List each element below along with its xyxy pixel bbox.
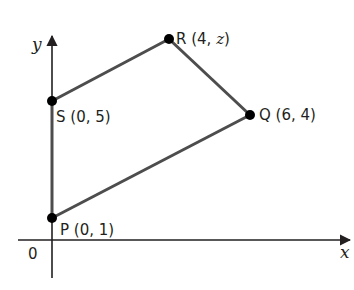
label-r: R (4, z) [176, 30, 230, 48]
point-q [245, 110, 255, 120]
label-r-prefix: R (4, [176, 30, 216, 48]
label-q: Q (6, 4) [259, 106, 316, 124]
y-axis-label: y [31, 34, 42, 54]
label-p: P (0, 1) [60, 221, 114, 239]
edge-rs [52, 39, 169, 101]
quadrilateral-pqrs [52, 39, 250, 218]
x-axis-label: x [340, 242, 350, 262]
point-r [164, 34, 174, 44]
point-s [47, 96, 57, 106]
origin-label: 0 [28, 245, 38, 263]
edge-pq [52, 115, 250, 218]
coordinate-diagram: y x 0 P (0, 1) Q (6, 4) R (4, z) S (0, 5… [0, 0, 354, 290]
point-p [47, 213, 57, 223]
label-r-suffix: ) [224, 30, 230, 48]
label-s: S (0, 5) [56, 108, 111, 126]
edge-qr [169, 39, 250, 115]
label-r-variable: z [215, 30, 224, 48]
